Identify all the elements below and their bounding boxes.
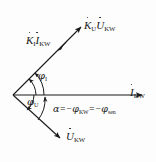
label-phi-i: φI (38, 71, 47, 81)
angle-arc-alpha (38, 97, 45, 120)
label-ukw-vector: UKW (66, 131, 85, 142)
label-ki-ikw: KIIKW (26, 35, 50, 46)
label-ku-ukw: KUUKW (84, 20, 115, 31)
phasor-diagram-figure: KIIKW KUUKW IKW UKW φI φU α=−φKW=−φsen (0, 0, 156, 162)
label-ikw-axis: IKW (130, 87, 145, 98)
label-phi-u: φU (27, 97, 38, 107)
label-alpha-equation: α=−φKW=−φsen (53, 104, 116, 115)
